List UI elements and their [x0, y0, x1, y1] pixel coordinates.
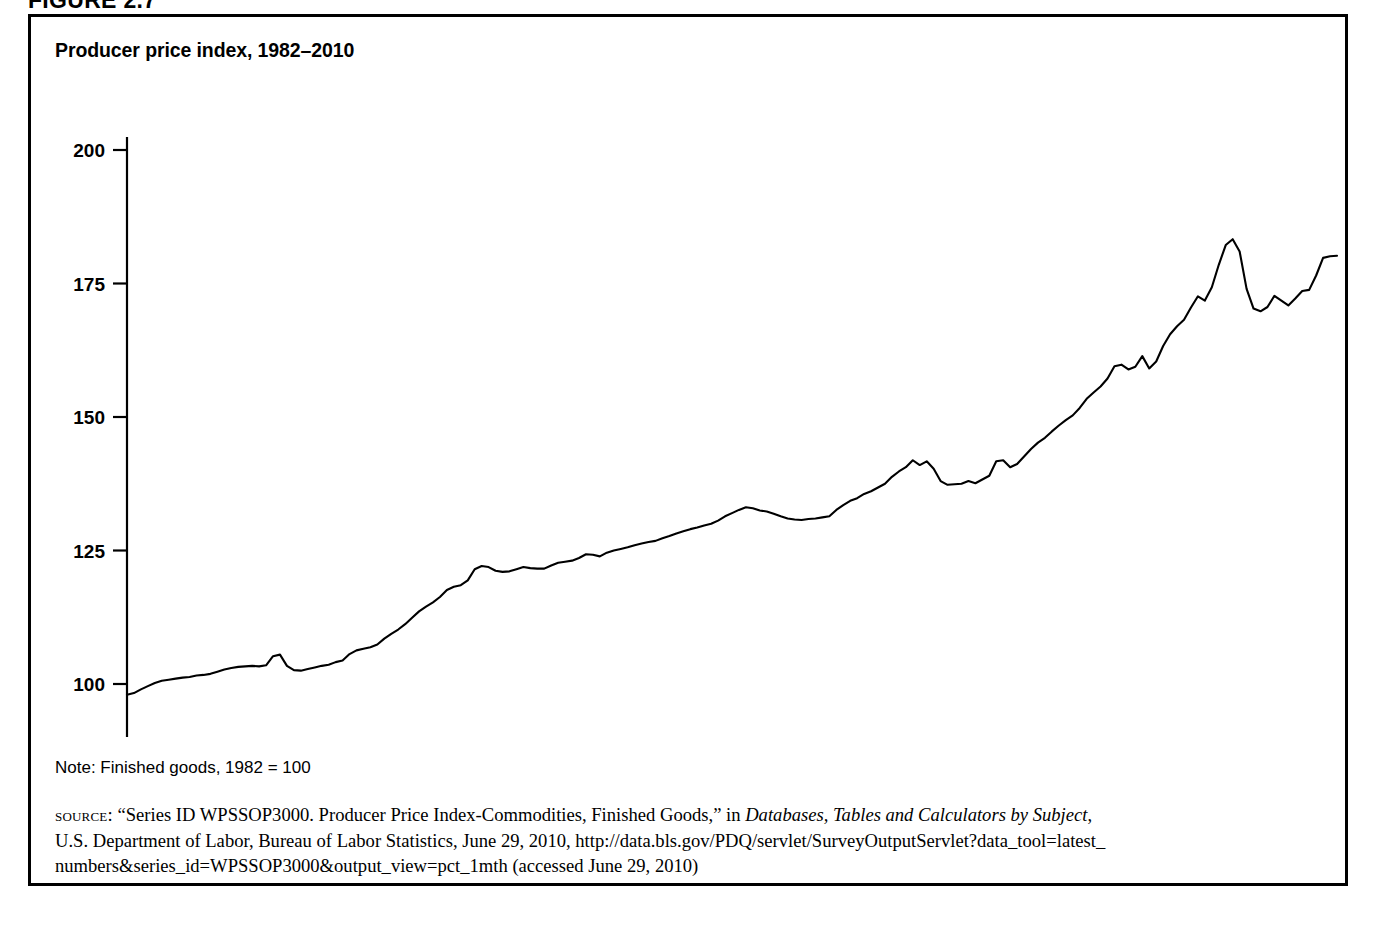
source-line-1-pre: “Series ID WPSSOP3000. Producer Price In… — [113, 804, 745, 825]
y-axis-tick-label: 175 — [73, 274, 105, 295]
y-axis-tick-label: 150 — [73, 407, 105, 428]
line-chart-svg: 100125150175200 198219841986198819901992… — [31, 17, 1345, 737]
source-line-2: U.S. Department of Labor, Bureau of Labo… — [55, 828, 1325, 854]
source-line-1-post: , — [1087, 804, 1092, 825]
ppi-data-line — [127, 239, 1337, 695]
source-line-3: numbers&series_id=WPSSOP3000&output_view… — [55, 853, 1325, 879]
y-axis-tick-label: 200 — [73, 140, 105, 161]
chart-note: Note: Finished goods, 1982 = 100 — [55, 758, 311, 778]
source-line-1-italic: Databases, Tables and Calculators by Sub… — [745, 804, 1087, 825]
chart-source: source: “Series ID WPSSOP3000. Producer … — [55, 802, 1325, 879]
source-line-1: source: “Series ID WPSSOP3000. Producer … — [55, 802, 1325, 828]
source-kicker: source: — [55, 804, 113, 825]
figure-container: Producer price index, 1982–2010 10012515… — [28, 14, 1348, 886]
y-axis-tick-label: 100 — [73, 674, 105, 695]
chart-plot-area: 100125150175200 198219841986198819901992… — [31, 17, 1345, 737]
figure-label: FIGURE 2.7 — [28, 0, 156, 14]
y-axis: 100125150175200 — [73, 137, 127, 737]
y-axis-tick-label: 125 — [73, 541, 105, 562]
